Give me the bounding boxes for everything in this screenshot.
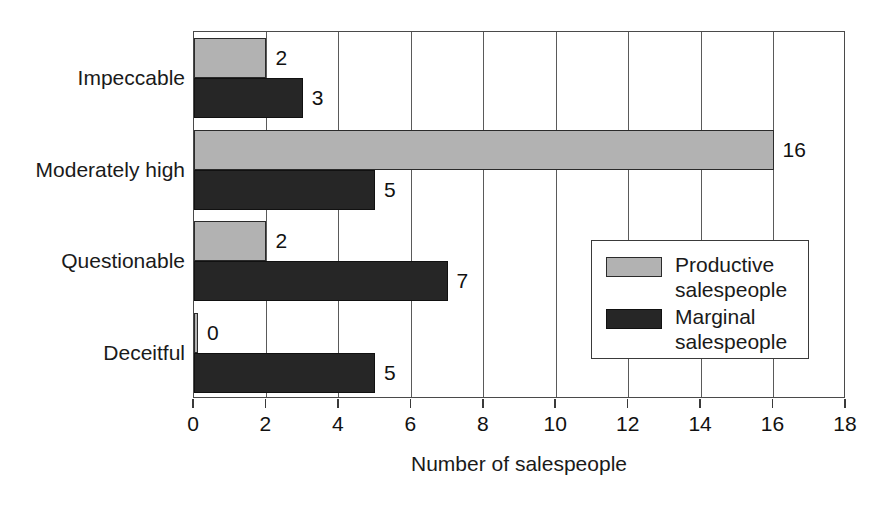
tick-mark xyxy=(192,399,194,408)
tick-mark xyxy=(627,399,629,408)
gridline xyxy=(483,32,484,397)
bar xyxy=(194,261,448,301)
tick-mark xyxy=(772,399,774,408)
category-label: Moderately high xyxy=(36,159,185,180)
bar xyxy=(194,221,266,261)
bar xyxy=(194,313,198,353)
legend-swatch-productive xyxy=(606,257,662,277)
bar-chart: ImpeccableModerately highQuestionableDec… xyxy=(0,0,882,505)
legend-swatch-marginal xyxy=(606,309,662,329)
category-label: Deceitful xyxy=(103,342,185,363)
gridline xyxy=(338,32,339,397)
data-label: 0 xyxy=(207,322,219,343)
data-label: 3 xyxy=(312,87,324,108)
tick-mark xyxy=(337,399,339,408)
tick-mark xyxy=(265,399,267,408)
gridline xyxy=(556,32,557,397)
tick-mark xyxy=(699,399,701,408)
legend-label: Productive salespeople xyxy=(675,253,787,303)
tick-label: 12 xyxy=(616,413,639,434)
data-label: 16 xyxy=(783,139,806,160)
tick-label: 8 xyxy=(477,413,489,434)
tick-label: 0 xyxy=(187,413,199,434)
legend: Productive salespeopleMarginal salespeop… xyxy=(591,240,809,359)
tick-label: 14 xyxy=(688,413,711,434)
category-label: Impeccable xyxy=(78,67,185,88)
data-label: 2 xyxy=(275,230,287,251)
data-label: 7 xyxy=(457,270,469,291)
tick-label: 4 xyxy=(332,413,344,434)
data-label: 5 xyxy=(384,362,396,383)
gridline xyxy=(411,32,412,397)
data-label: 5 xyxy=(384,179,396,200)
value-axis-title: Number of salespeople xyxy=(193,453,845,474)
bar xyxy=(194,78,303,118)
data-label: 2 xyxy=(275,47,287,68)
tick-mark xyxy=(844,399,846,408)
bar xyxy=(194,353,375,393)
legend-item: Marginal salespeople xyxy=(606,305,787,355)
tick-label: 10 xyxy=(544,413,567,434)
bar xyxy=(194,130,774,170)
tick-mark xyxy=(554,399,556,408)
legend-item: Productive salespeople xyxy=(606,253,787,303)
tick-label: 6 xyxy=(404,413,416,434)
bar xyxy=(194,38,266,78)
legend-label: Marginal salespeople xyxy=(675,305,787,355)
value-axis: 024681012141618 xyxy=(193,399,845,449)
tick-label: 16 xyxy=(761,413,784,434)
tick-label: 18 xyxy=(833,413,856,434)
category-axis-labels: ImpeccableModerately highQuestionableDec… xyxy=(0,0,185,505)
tick-label: 2 xyxy=(260,413,272,434)
category-label: Questionable xyxy=(61,250,185,271)
tick-mark xyxy=(410,399,412,408)
tick-mark xyxy=(482,399,484,408)
bar xyxy=(194,170,375,210)
